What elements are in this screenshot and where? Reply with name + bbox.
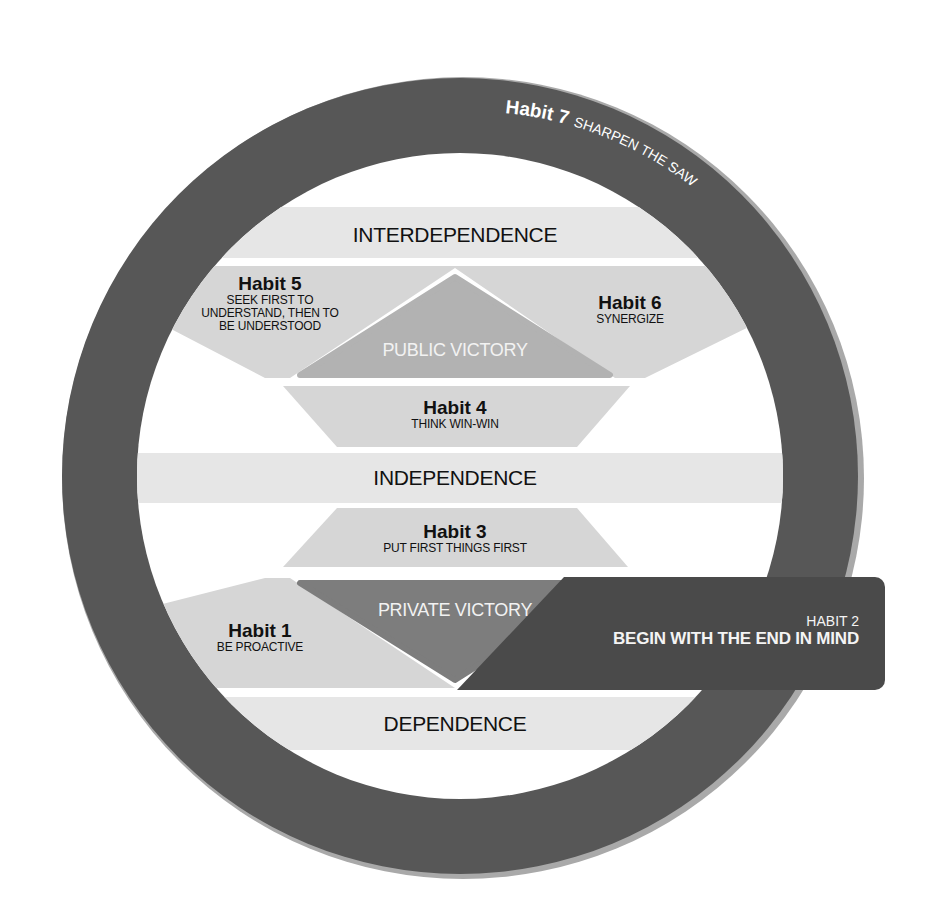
habit-6-subtitle: SYNERGIZE [570, 313, 690, 326]
public-victory-label: PUBLIC VICTORY [330, 340, 580, 360]
habit-3-subtitle: PUT FIRST THINGS FIRST [340, 542, 570, 555]
habit-2-subtitle: BEGIN WITH THE END IN MIND [613, 629, 859, 649]
habit-1-subtitle: BE PROACTIVE [200, 641, 320, 654]
habit-6-label: Habit 6 SYNERGIZE [570, 293, 690, 326]
interdependence-label: INTERDEPENDENCE [280, 224, 630, 246]
private-victory-label: PRIVATE VICTORY [330, 600, 580, 620]
habit-3-label: Habit 3 PUT FIRST THINGS FIRST [340, 522, 570, 555]
habit-1-title: Habit 1 [200, 621, 320, 641]
habit-2-title: HABIT 2 [613, 613, 859, 629]
dependence-label: DEPENDENCE [280, 713, 630, 735]
habit-4-label: Habit 4 THINK WIN-WIN [355, 398, 555, 431]
independence-label: INDEPENDENCE [280, 467, 630, 489]
habit-5-label: Habit 5 SEEK FIRST TO UNDERSTAND, THEN T… [180, 274, 360, 333]
habit-5-subtitle-line-3: BE UNDERSTOOD [180, 320, 360, 333]
habit-1-label: Habit 1 BE PROACTIVE [200, 621, 320, 654]
habit-4-title: Habit 4 [355, 398, 555, 418]
habit-3-title: Habit 3 [340, 522, 570, 542]
habit-4-subtitle: THINK WIN-WIN [355, 418, 555, 431]
habit-6-title: Habit 6 [570, 293, 690, 313]
seven-habits-diagram: Habit 7SHARPEN THE SAW HABIT 2 BEGIN WIT… [0, 0, 926, 921]
habit-5-title: Habit 5 [180, 274, 360, 294]
